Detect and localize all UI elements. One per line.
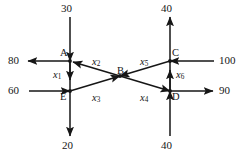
edge-label-x6: x6 [176,70,184,81]
node-label-D: D [172,92,180,103]
node-label-C: C [172,48,179,59]
edge-label-x4: x4 [140,93,148,104]
edge-label-x2: x2 [92,57,100,68]
edge-label-x3-sub: 3 [97,96,101,104]
node-dot-A [68,59,72,63]
flow-label-outflow-right-lower: 90 [219,85,230,96]
edge-label-x5-sub: 5 [145,60,149,68]
flow-label-inflow-top-right: 40 [161,3,172,14]
flow-label-inflow-top-left: 30 [61,3,72,14]
edge-label-x4-sub: 4 [145,96,149,104]
flow-label-outflow-left-upper: 80 [8,55,19,66]
edge-x4 [120,76,170,91]
edge-label-x3-base: x [92,92,97,103]
edge-x3 [70,76,120,91]
edge-label-x2-base: x [92,56,97,67]
edge-label-x5: x5 [140,57,148,68]
edge-label-x2-sub: 2 [97,60,101,68]
network-flow-diagram [0,0,243,155]
edge-label-x4-base: x [140,92,145,103]
flow-label-inflow-left-lower: 60 [8,85,19,96]
edge-label-x6-sub: 6 [181,73,185,81]
node-dot-C [168,59,172,63]
edge-label-x1-base: x [53,69,58,80]
node-label-A: A [60,48,68,59]
node-label-B: B [117,66,124,77]
flow-label-inflow-right-upper: 100 [219,55,236,66]
edge-label-x1-sub: 1 [58,73,62,81]
diagram-canvas: 30 40 80 60 100 90 20 40 A B C D E x1 x2… [0,0,243,155]
edge-label-x6-base: x [176,69,181,80]
node-dot-E [68,89,72,93]
edge-label-x1: x1 [53,70,61,81]
edge-label-x3: x3 [92,93,100,104]
flow-label-inflow-bottom-right: 40 [161,140,172,151]
flow-label-outflow-bottom-left: 20 [62,140,73,151]
node-label-E: E [60,92,66,103]
edge-label-x5-base: x [140,56,145,67]
